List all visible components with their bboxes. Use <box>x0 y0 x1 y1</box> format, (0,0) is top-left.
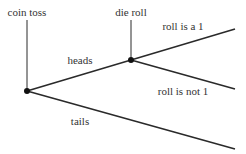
coin-toss-node <box>24 88 30 94</box>
probability-tree-diagram: coin toss die roll heads tails roll is a… <box>0 0 246 154</box>
coin-toss-label: coin toss <box>8 6 47 18</box>
die-roll-node <box>128 57 134 63</box>
tails-label: tails <box>71 115 89 127</box>
roll-is-1-branch <box>131 29 235 60</box>
tree-svg: coin toss die roll heads tails roll is a… <box>0 0 246 154</box>
die-roll-label: die roll <box>115 6 146 18</box>
roll-is-1-label: roll is a 1 <box>162 20 203 32</box>
roll-not-1-label: roll is not 1 <box>158 85 208 97</box>
heads-label: heads <box>67 54 92 66</box>
tails-branch <box>27 91 235 149</box>
